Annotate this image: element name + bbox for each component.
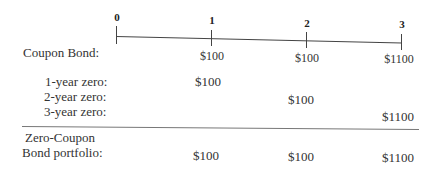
portfolio-cf-2: $100 — [288, 149, 314, 165]
coupon-bond-label: Coupon Bond: — [23, 45, 99, 61]
tick-label-1: 1 — [209, 14, 215, 26]
coupon-bond-cf-1: $100 — [200, 49, 224, 64]
tick-label-0: 0 — [114, 11, 120, 23]
tick-0 — [116, 26, 117, 44]
portfolio-cf-1: $100 — [193, 148, 219, 164]
coupon-bond-cf-2: $100 — [295, 51, 319, 66]
zero-2-label: 2-year zero: — [44, 89, 106, 105]
zero-3-label: 3-year zero: — [44, 104, 106, 120]
zero-3-value: $1100 — [382, 109, 414, 125]
portfolio-cf-3: $1100 — [382, 150, 414, 166]
tick-3 — [401, 34, 402, 50]
tick-2 — [306, 32, 307, 48]
zero-1-value: $100 — [195, 74, 221, 90]
zero-1-label: 1-year zero: — [45, 74, 107, 90]
portfolio-label-line2: Bond portfolio: — [22, 145, 103, 161]
tick-label-2: 2 — [304, 17, 310, 29]
coupon-bond-cf-3: $1100 — [384, 52, 414, 67]
tick-label-3: 3 — [399, 18, 405, 30]
zero-2-value: $100 — [288, 92, 314, 108]
portfolio-label-line1: Zero-Coupon — [25, 130, 95, 146]
timeline-axis — [116, 36, 402, 43]
tick-1 — [211, 30, 212, 46]
